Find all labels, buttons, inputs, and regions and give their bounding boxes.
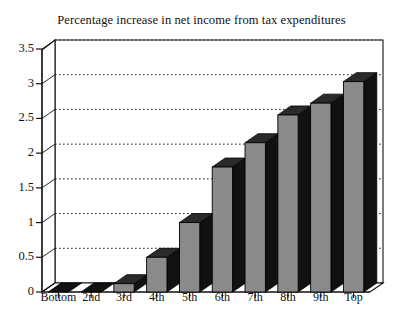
y-axis-label: 2.5 [0, 110, 34, 125]
y-axis-label: 3 [0, 76, 34, 91]
x-axis-label: Top [331, 290, 376, 305]
y-axis-label: 0.5 [0, 249, 34, 264]
y-axis-label: 1.5 [0, 180, 34, 195]
bar [278, 106, 311, 292]
bar [147, 248, 180, 292]
bar [179, 214, 212, 292]
bar [212, 158, 245, 292]
bar [343, 73, 376, 292]
bar-chart: Percentage increase in net income from t… [0, 0, 403, 322]
y-axis-label: 1 [0, 215, 34, 230]
bar [311, 94, 344, 292]
y-axis-label: 2 [0, 145, 34, 160]
chart-canvas [0, 0, 403, 322]
y-axis-label: 3.5 [0, 41, 34, 56]
bar [245, 134, 278, 292]
y-axis-label: 0 [0, 284, 34, 299]
